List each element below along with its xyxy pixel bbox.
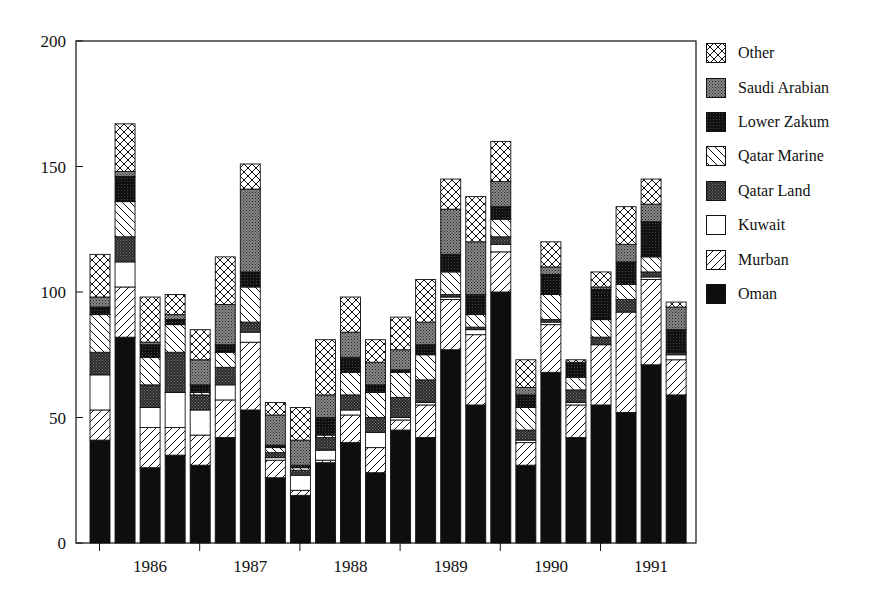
- bar-segment-other: [90, 254, 110, 297]
- bar-segment-lower-zakum: [591, 289, 611, 319]
- bar-stack: [441, 179, 461, 543]
- bar-segment-other: [641, 179, 661, 204]
- bar-segment-saudi-arabian: [341, 332, 361, 357]
- bar-segment-qatar-land: [265, 453, 285, 458]
- bar-segment-lower-zakum: [441, 254, 461, 272]
- bar-segment-qatar-marine: [516, 407, 536, 430]
- bar-segment-saudi-arabian: [391, 350, 411, 370]
- y-tick-label: 50: [49, 409, 66, 428]
- bar-segment-qatar-land: [140, 385, 160, 408]
- y-tick-label: 100: [41, 283, 67, 302]
- bar-stack: [215, 257, 235, 543]
- legend-swatch-icon: [706, 78, 726, 98]
- bar-segment-oman: [441, 350, 461, 543]
- bar-segment-lower-zakum: [240, 272, 260, 287]
- bar-stack: [265, 402, 285, 543]
- legend-label: Saudi Arabian: [738, 79, 829, 97]
- bar-segment-other: [341, 297, 361, 332]
- bar-segment-qatar-land: [215, 367, 235, 385]
- bar-segment-oman: [290, 495, 310, 543]
- bar-segment-other: [265, 402, 285, 415]
- bar-segment-oman: [541, 372, 561, 543]
- legend-swatch-icon: [706, 181, 726, 201]
- bar-segment-kuwait: [165, 392, 185, 427]
- bar-segment-lower-zakum: [466, 295, 486, 315]
- bar-segment-lower-zakum: [315, 418, 335, 436]
- bar-stack: [616, 207, 636, 543]
- bar-segment-oman: [591, 405, 611, 543]
- bar-segment-murban: [240, 342, 260, 410]
- bar-segment-lower-zakum: [541, 274, 561, 294]
- bar-segment-lower-zakum: [566, 362, 586, 377]
- bar-segment-oman: [616, 412, 636, 543]
- bar-segment-kuwait: [666, 355, 686, 360]
- bar-segment-saudi-arabian: [165, 315, 185, 320]
- legend-label: Lower Zakum: [738, 113, 829, 131]
- bar-segment-kuwait: [240, 332, 260, 342]
- bar-segment-saudi-arabian: [666, 307, 686, 330]
- bar-segment-kuwait: [466, 330, 486, 335]
- bar-segment-qatar-land: [165, 352, 185, 392]
- bar-stack: [466, 197, 486, 543]
- bar-stack: [90, 254, 110, 543]
- bar-stack: [290, 407, 310, 543]
- legend-swatch-icon: [706, 43, 726, 63]
- bar-segment-qatar-land: [190, 395, 210, 410]
- bar-segment-murban: [516, 443, 536, 466]
- x-axis: 198619871988198919901991: [100, 543, 669, 576]
- y-tick-label: 150: [41, 158, 67, 177]
- legend-item-saudi-arabian: Saudi Arabian: [706, 70, 829, 104]
- bar-stack: [341, 297, 361, 543]
- bar-segment-lower-zakum: [215, 345, 235, 353]
- bar-segment-saudi-arabian: [641, 204, 661, 222]
- bar-segment-kuwait: [341, 410, 361, 415]
- legend-swatch-icon: [706, 250, 726, 270]
- bar-stack: [591, 272, 611, 543]
- bar-segment-qatar-marine: [115, 202, 135, 237]
- bar-segment-qatar-land: [416, 380, 436, 403]
- bar-stack: [366, 340, 386, 543]
- bar-segment-kuwait: [215, 385, 235, 400]
- bar-segment-qatar-land: [516, 430, 536, 440]
- bar-segment-oman: [341, 443, 361, 543]
- bar-segment-oman: [315, 463, 335, 543]
- bar-segment-qatar-land: [366, 418, 386, 433]
- legend-swatch-icon: [706, 215, 726, 235]
- bar-segment-saudi-arabian: [541, 267, 561, 275]
- x-group-label: 1991: [634, 557, 668, 576]
- bar-segment-oman: [265, 478, 285, 543]
- bar-segment-oman: [90, 440, 110, 543]
- x-group-label: 1987: [233, 557, 268, 576]
- bar-segment-murban: [541, 325, 561, 373]
- bar-segment-other: [115, 124, 135, 172]
- bar-segment-saudi-arabian: [290, 440, 310, 465]
- legend-item-lower-zakum: Lower Zakum: [706, 105, 829, 139]
- bar-segment-oman: [391, 430, 411, 543]
- bar-segment-qatar-land: [115, 237, 135, 262]
- bar-segment-kuwait: [190, 410, 210, 435]
- y-tick-label: 0: [58, 534, 67, 553]
- bar-segment-qatar-marine: [541, 295, 561, 320]
- bar-segment-lower-zakum: [140, 345, 160, 358]
- legend-label: Other: [738, 44, 774, 62]
- bar-segment-other: [165, 295, 185, 315]
- bar-segment-qatar-marine: [466, 315, 486, 328]
- bar-segment-other: [315, 340, 335, 395]
- bar-segment-qatar-land: [491, 237, 511, 245]
- legend: OtherSaudi ArabianLower ZakumQatar Marin…: [706, 36, 829, 311]
- bar-segment-kuwait: [491, 244, 511, 252]
- legend-item-qatar-marine: Qatar Marine: [706, 139, 829, 173]
- bar-segment-qatar-land: [240, 322, 260, 332]
- legend-swatch-icon: [706, 146, 726, 166]
- bar-segment-other: [516, 360, 536, 388]
- bar-segment-other: [666, 302, 686, 307]
- legend-label: Qatar Land: [738, 182, 810, 200]
- bar-segment-kuwait: [90, 375, 110, 410]
- bar-segment-lower-zakum: [641, 222, 661, 257]
- bar-segment-saudi-arabian: [466, 242, 486, 295]
- bar-segment-lower-zakum: [616, 262, 636, 285]
- x-group-label: 1990: [534, 557, 568, 576]
- bar-segment-qatar-marine: [366, 392, 386, 417]
- bar-segment-other: [566, 360, 586, 363]
- bar-segment-lower-zakum: [366, 385, 386, 393]
